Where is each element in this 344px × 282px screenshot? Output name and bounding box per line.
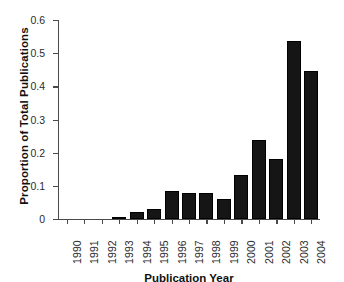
- x-tick-label: 1995: [158, 240, 170, 264]
- y-tick-label: 0.3: [30, 114, 45, 126]
- y-tick: 0.6: [53, 20, 58, 21]
- y-tick: 0: [53, 219, 58, 220]
- x-tick-label: 1999: [228, 240, 240, 264]
- x-tick-label: 1992: [106, 240, 118, 264]
- bar: [217, 199, 231, 219]
- x-tick-label: 1993: [123, 240, 135, 264]
- bar: [304, 71, 318, 219]
- bar: [182, 193, 196, 219]
- bar: [199, 193, 213, 219]
- bar-series: [58, 20, 320, 219]
- y-tick: 0.1: [53, 186, 58, 187]
- bar: [165, 191, 179, 219]
- y-axis-title: Proportion of Total Publications: [18, 4, 30, 228]
- x-tick-label: 2004: [315, 240, 327, 264]
- x-tick-label: 1998: [210, 240, 222, 264]
- y-tick: 0.4: [53, 86, 58, 87]
- y-tick-label: 0: [39, 213, 45, 225]
- y-tick-label: 0.4: [30, 80, 45, 92]
- y-tick: 0.2: [53, 153, 58, 154]
- y-tick: 0.5: [53, 53, 58, 54]
- x-tick-label: 2001: [263, 240, 275, 264]
- x-tick-label: 2003: [298, 240, 310, 264]
- x-tick-label: 1996: [176, 240, 188, 264]
- y-tick-label: 0.2: [30, 147, 45, 159]
- bar: [269, 159, 283, 219]
- y-tick-label: 0.6: [30, 14, 45, 26]
- bar: [234, 175, 248, 219]
- bar: [252, 140, 266, 219]
- plot-area: 00.10.20.30.40.50.6: [58, 20, 320, 219]
- x-axis-title: Publication Year: [58, 272, 320, 282]
- y-tick-label: 0.5: [30, 47, 45, 59]
- bar-chart-figure: Proportion of Total Publications 00.10.2…: [0, 0, 344, 282]
- bar: [287, 41, 301, 219]
- x-tick-label: 2002: [280, 240, 292, 264]
- y-tick: 0.3: [53, 120, 58, 121]
- x-tick-label: 1991: [88, 240, 100, 264]
- x-tick-label: 1994: [141, 240, 153, 264]
- x-axis-tick-labels: 1990199119921993199419951996199719981999…: [58, 224, 320, 268]
- x-tick-label: 1990: [71, 240, 83, 264]
- bar: [130, 212, 144, 219]
- y-tick-label: 0.1: [30, 180, 45, 192]
- bar: [147, 209, 161, 219]
- x-tick-label: 2000: [245, 240, 257, 264]
- x-tick-label: 1997: [193, 240, 205, 264]
